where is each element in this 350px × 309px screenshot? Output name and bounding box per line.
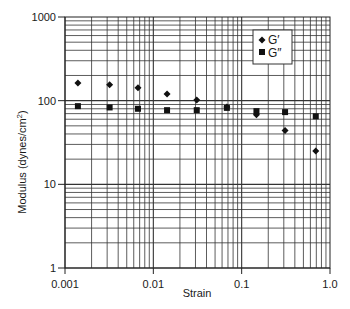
legend: G′ G″ [253, 30, 292, 64]
data-point-g-prime [282, 127, 289, 134]
data-point-g-prime [164, 91, 171, 98]
data-point-g-double-prime [282, 109, 288, 115]
data-point-g-double-prime [224, 105, 230, 111]
y-tick-label: 1000 [32, 11, 56, 23]
data-point-g-prime [74, 79, 81, 86]
x-tick-label: 0.1 [234, 278, 249, 290]
data-point-g-double-prime [135, 106, 141, 112]
data-point-g-prime [312, 148, 319, 155]
data-point-g-double-prime [164, 107, 170, 113]
square-icon [259, 49, 265, 55]
y-tick-label: 100 [38, 95, 56, 107]
data-point-g-double-prime [75, 103, 81, 109]
chart: 11010010000.0010.010.11.0 Strain Modulus… [0, 0, 350, 309]
x-axis-title: Strain [183, 287, 212, 299]
data-point-g-prime [134, 84, 141, 91]
x-tick-label: 1.0 [322, 278, 337, 290]
y-axis-title: Modulus (dynes/cm2) [15, 110, 29, 214]
data-point-g-double-prime [194, 107, 200, 113]
x-tick-label: 0.01 [143, 278, 164, 290]
x-tick-label: 0.001 [51, 278, 79, 290]
legend-label-g-prime: G′ [268, 33, 280, 47]
data-point-g-double-prime [253, 108, 259, 114]
y-tick-label: 1 [50, 262, 56, 274]
y-tick-label: 10 [44, 178, 56, 190]
data-point-g-prime [193, 96, 200, 103]
data-points [74, 79, 319, 154]
data-point-g-double-prime [313, 113, 319, 119]
data-point-g-double-prime [107, 104, 113, 110]
legend-label-g-double-prime: G″ [268, 46, 282, 60]
